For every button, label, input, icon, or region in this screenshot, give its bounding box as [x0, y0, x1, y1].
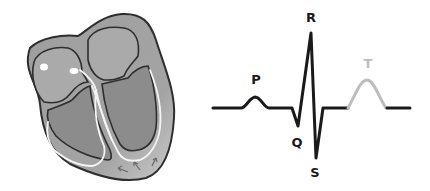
- av-node-icon: [70, 68, 79, 74]
- label-r-wave: R: [306, 11, 316, 24]
- label-s-wave: S: [310, 166, 319, 179]
- label-q-wave: Q: [291, 136, 302, 149]
- heart-illustration: [0, 0, 200, 191]
- label-p-wave: P: [251, 73, 261, 86]
- label-t-wave: T: [364, 57, 373, 70]
- ecg-trace-pqrs: [213, 33, 348, 158]
- sa-node-icon: [40, 64, 48, 71]
- figure: P Q R S T: [0, 0, 430, 191]
- ecg-waveform: [200, 0, 430, 191]
- ecg-t-wave: [348, 80, 386, 108]
